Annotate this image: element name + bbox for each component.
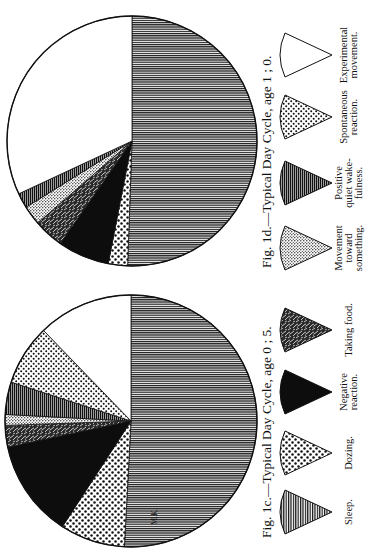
legend-swatch-negative (280, 370, 332, 414)
legend-swatch-dozing (280, 431, 332, 475)
legend-label-negative: reaction. (348, 374, 359, 410)
pie-slice-sleep (128, 16, 257, 266)
legend-swatch-food (280, 308, 332, 352)
caption-fig-1d: Fig. 1d.—Typical Day Cycle, age 1 ; 0. (259, 56, 274, 268)
legend-swatch-experimental (280, 33, 332, 77)
legend-label-sleep: Sleep. (343, 499, 354, 525)
day-cycle-figure: M.K. Fig. 1d.—Typical Day Cycle, age 1 ;… (0, 0, 377, 552)
legend-swatch-toward (280, 226, 332, 270)
legend-swatch-sleep (280, 490, 332, 534)
legend-swatch-spontaneous (280, 95, 332, 139)
legend-label-toward: something. (353, 225, 364, 271)
legend-swatch-quiet (280, 161, 332, 205)
legend-label-food: Taking food. (343, 303, 354, 357)
pie-slice-sleep (124, 295, 257, 547)
legend-label-spontaneous: reaction. (348, 99, 359, 135)
caption-fig-1c: Fig. 1c.—Typical Day Cycle, age 0 ; 5. (259, 326, 274, 538)
pie-chart-age-1-0 (7, 16, 257, 266)
legend-label-quiet: fulness. (353, 167, 364, 199)
pie-chart-age-0-5 (5, 295, 257, 547)
legend: Sleep.Dozing.Negativereaction.Taking foo… (280, 27, 364, 534)
legend-label-experimental: movement. (348, 32, 359, 79)
mark-text: M.K. (150, 508, 159, 525)
legend-label-dozing: Dozing. (343, 436, 354, 470)
